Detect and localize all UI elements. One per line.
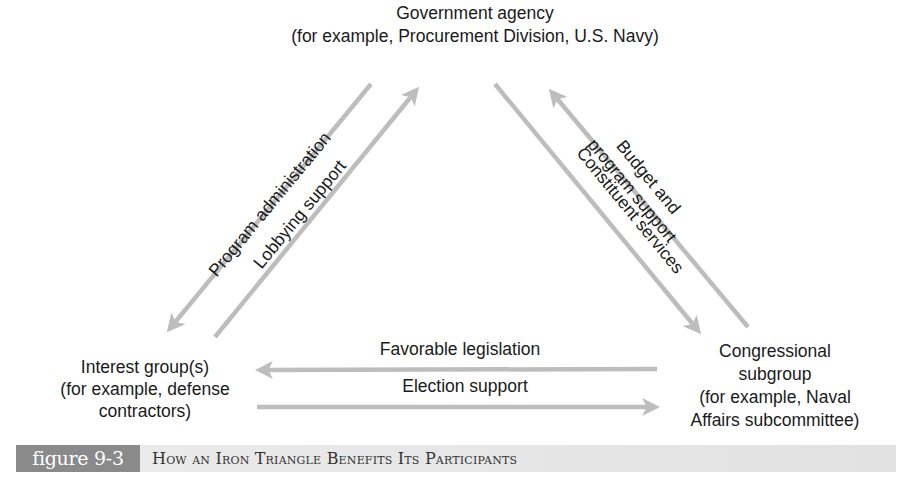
node-example: contractors)	[30, 400, 260, 422]
node-interest-groups: Interest group(s) (for example, defense …	[30, 356, 260, 422]
arrow-lobbying-support	[215, 93, 414, 337]
node-example: (for example, Naval	[660, 386, 890, 409]
label-favorable-legislation: Favorable legislation	[360, 339, 560, 360]
figure-caption: figure 9-3 How an Iron Triangle Benefits…	[16, 445, 896, 472]
node-title: Government agency	[250, 2, 700, 25]
node-title: Interest group(s)	[30, 356, 260, 378]
node-congressional-subgroup: Congressional subgroup (for example, Nav…	[660, 340, 890, 432]
label-election-support: Election support	[375, 376, 555, 397]
node-title: subgroup	[660, 363, 890, 386]
node-example: (for example, Procurement Division, U.S.…	[250, 25, 700, 48]
node-title: Congressional	[660, 340, 890, 363]
arrow-favorable-legislation	[263, 369, 657, 370]
node-example: (for example, defense	[30, 378, 260, 400]
figure-number-badge: figure 9-3	[16, 445, 140, 472]
figure-title: How an Iron Triangle Benefits Its Partic…	[152, 445, 517, 472]
node-government-agency: Government agency (for example, Procurem…	[250, 2, 700, 48]
node-example: Affairs subcommittee)	[660, 409, 890, 432]
